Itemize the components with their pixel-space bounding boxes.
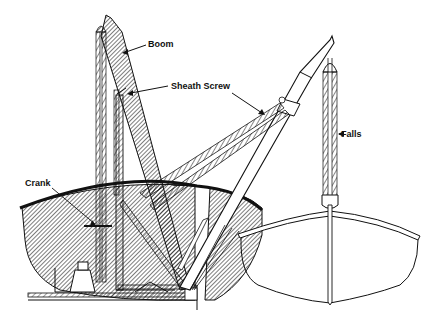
boom-label: Boom — [148, 40, 174, 49]
stowed-boat — [20, 181, 262, 300]
swung-out-boat — [238, 205, 420, 305]
sheath-screw-label: Sheath Screw — [171, 82, 230, 91]
falls-label: Falls — [341, 130, 362, 139]
crank-label: Crank — [25, 179, 51, 188]
davit-diagram — [0, 0, 440, 330]
